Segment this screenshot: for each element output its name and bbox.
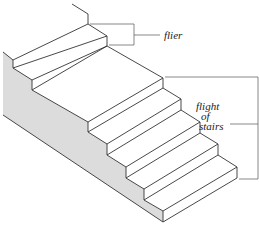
flier-label: flier: [164, 30, 182, 40]
dimension-brackets: [90, 24, 258, 179]
flight-label-line3: stairs: [199, 121, 223, 131]
side-wall: [3, 52, 163, 222]
staircase-drawing: [0, 0, 259, 231]
staircase-diagram: flier flight of stairs: [0, 0, 259, 231]
